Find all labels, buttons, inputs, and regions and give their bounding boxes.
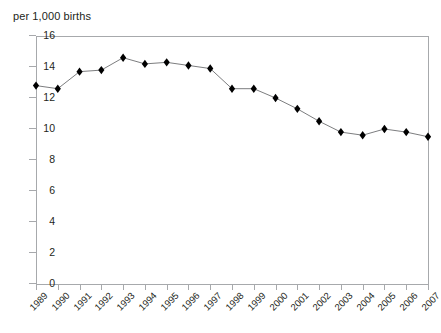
data-point	[381, 125, 387, 133]
series-markers	[33, 54, 431, 141]
data-point	[207, 64, 213, 72]
data-point	[55, 85, 61, 93]
line-chart: per 1,000 births 1614121086420 198919901…	[0, 0, 441, 333]
data-point	[120, 54, 126, 62]
data-point	[360, 131, 366, 139]
data-point	[403, 128, 409, 136]
data-point	[294, 105, 300, 113]
data-point	[98, 66, 104, 74]
data-point	[164, 58, 170, 66]
data-point	[251, 85, 257, 93]
series-layer	[0, 0, 441, 333]
data-point	[316, 117, 322, 125]
data-point	[76, 67, 82, 75]
data-point	[33, 81, 39, 89]
data-point	[425, 133, 431, 141]
series-line-path	[36, 58, 428, 137]
data-point	[229, 85, 235, 93]
data-point	[185, 61, 191, 69]
data-point	[272, 94, 278, 102]
data-point	[142, 60, 148, 68]
data-point	[338, 128, 344, 136]
